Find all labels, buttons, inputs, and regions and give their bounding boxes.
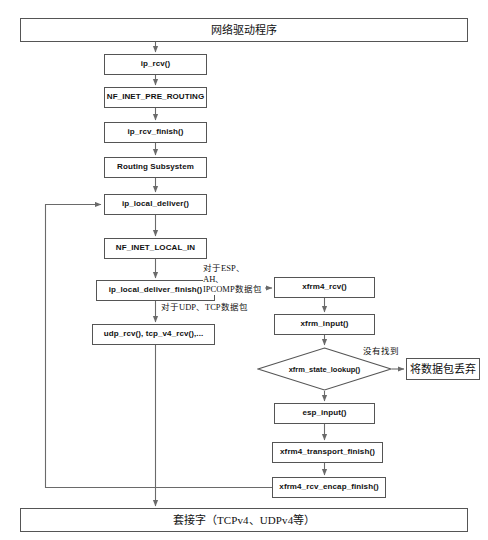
edge-label-line1: 对于UDP、TCP数据包 <box>161 302 248 312</box>
node-xfrm4-transport-finish[interactable]: xfrm4_transport_finish() <box>272 442 383 463</box>
edge-label-line2: IPCOMP数据包 <box>203 284 265 295</box>
node-label: NF_INET_PRE_ROUTING <box>107 93 204 102</box>
flowchart-canvas: 网络驱动程序 ip_rcv() NF_INET_PRE_ROUTING ip_r… <box>0 0 488 540</box>
node-label: ip_local_deliver_finish() <box>109 286 203 295</box>
edge-label-not-found: 没有找到 <box>363 346 399 357</box>
node-label: 套接字（TCPv4、UDPv4等） <box>173 514 316 526</box>
node-label: ip_rcv() <box>141 60 171 69</box>
node-nf-inet-pre-routing[interactable]: NF_INET_PRE_ROUTING <box>104 87 207 108</box>
node-network-driver[interactable]: 网络驱动程序 <box>20 18 468 42</box>
node-label: ip_rcv_finish() <box>127 128 183 137</box>
node-label: xfrm4_rcv() <box>302 283 347 292</box>
node-xfrm4-rcv-encap-finish[interactable]: xfrm4_rcv_encap_finish() <box>272 477 386 498</box>
node-label: 将数据包丢弃 <box>410 363 477 375</box>
node-ip-rcv-finish[interactable]: ip_rcv_finish() <box>104 122 207 143</box>
node-nf-inet-local-in[interactable]: NF_INET_LOCAL_IN <box>104 238 207 259</box>
node-label: xfrm4_transport_finish() <box>280 448 375 457</box>
edge-label-line1: 没有找到 <box>363 346 399 356</box>
edge-label-line1: 对于ESP、AH、 <box>203 263 265 284</box>
node-xfrm-input[interactable]: xfrm_input() <box>274 314 375 335</box>
node-label: 网络驱动程序 <box>211 24 278 36</box>
node-drop-packet[interactable]: 将数据包丢弃 <box>406 358 480 380</box>
node-label: xfrm_input() <box>301 320 349 329</box>
node-routing-subsystem[interactable]: Routing Subsystem <box>104 157 207 178</box>
node-label: NF_INET_LOCAL_IN <box>116 244 195 253</box>
edge-label-esp-ah-ipcomp: 对于ESP、AH、 IPCOMP数据包 <box>203 263 265 295</box>
node-esp-input[interactable]: esp_input() <box>274 403 375 424</box>
node-ip-local-deliver-finish[interactable]: ip_local_deliver_finish() <box>96 280 215 301</box>
node-ip-rcv[interactable]: ip_rcv() <box>104 54 207 75</box>
node-label: xfrm4_rcv_encap_finish() <box>279 483 378 492</box>
node-xfrm4-rcv[interactable]: xfrm4_rcv() <box>274 277 375 298</box>
node-label: Routing Subsystem <box>117 163 194 172</box>
node-label: esp_input() <box>302 409 346 418</box>
node-label: udp_rcv(), tcp_v4_rcv(),... <box>104 330 204 339</box>
node-ip-local-deliver[interactable]: ip_local_deliver() <box>104 194 207 215</box>
node-socket[interactable]: 套接字（TCPv4、UDPv4等） <box>20 508 468 532</box>
edge-label-udp-tcp: 对于UDP、TCP数据包 <box>161 302 248 313</box>
node-label: ip_local_deliver() <box>122 200 189 209</box>
node-udp-tcp-rcv[interactable]: udp_rcv(), tcp_v4_rcv(),... <box>92 324 215 345</box>
